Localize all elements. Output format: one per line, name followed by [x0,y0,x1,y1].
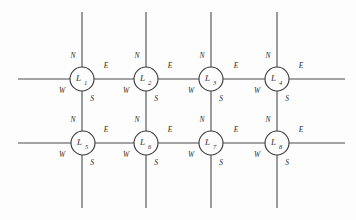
port-label-l2-w: W [123,86,130,95]
node-subscript-l1: 1 [84,79,87,86]
node-circle-l7[interactable] [199,131,223,155]
port-label-l1-e: E [103,61,109,70]
port-label-l5-n: N [69,115,76,124]
port-label-l7-e: E [233,125,239,134]
port-label-l3-s: S [219,94,223,103]
node-circle-l4[interactable] [265,67,289,91]
node-circle-l5[interactable] [71,131,95,155]
port-label-l7-w: W [188,150,195,159]
port-label-l2-n: N [133,51,140,60]
port-label-l3-n: N [198,51,205,60]
port-label-l6-s: S [154,158,158,167]
port-label-l4-s: S [285,94,289,103]
port-label-l1-n: N [69,51,76,60]
port-label-l4-w: W [254,86,261,95]
node-l3[interactable]: L3 [199,67,223,91]
port-label-l1-s: S [90,94,94,103]
port-label-l3-e: E [233,61,239,70]
port-label-l5-w: W [59,150,66,159]
node-l1[interactable]: L1 [70,67,94,91]
port-label-l6-n: N [133,115,140,124]
diagram-canvas: L1L2L3L4L5L6L7L8 NEWSNEWSNEWSNEWSNEWSNEW… [0,0,356,220]
node-label-l4: L [270,73,276,83]
port-label-l7-n: N [198,115,205,124]
port-label-l3-w: W [188,86,195,95]
node-circle-l3[interactable] [199,67,223,91]
port-label-l8-w: W [254,150,261,159]
node-label-l6: L [139,137,145,147]
horizontal-wires-group [18,79,345,143]
port-label-l2-e: E [167,61,173,70]
node-circle-l6[interactable] [134,131,158,155]
node-l4[interactable]: L4 [265,67,289,91]
node-label-l8: L [270,137,276,147]
node-circle-l1[interactable] [70,67,94,91]
port-label-l5-e: E [103,125,109,134]
node-label-l7: L [204,137,210,147]
mesh-network-diagram: L1L2L3L4L5L6L7L8 NEWSNEWSNEWSNEWSNEWSNEW… [0,0,356,220]
port-label-l1-w: W [59,86,66,95]
node-label-l2: L [139,73,145,83]
node-l7[interactable]: L7 [199,131,223,155]
node-label-l1: L [75,73,81,83]
port-label-l8-n: N [264,115,271,124]
node-label-l3: L [204,73,210,83]
port-label-l8-s: S [285,158,289,167]
node-label-l5: L [76,137,82,147]
node-l6[interactable]: L6 [134,131,158,155]
node-l8[interactable]: L8 [265,131,289,155]
port-label-l6-e: E [167,125,173,134]
port-label-l7-s: S [219,158,223,167]
port-label-l5-s: S [90,158,94,167]
port-label-l2-s: S [154,94,158,103]
node-circle-l8[interactable] [265,131,289,155]
port-label-l4-n: N [264,51,271,60]
nodes-group: L1L2L3L4L5L6L7L8 [70,67,289,155]
port-label-l4-e: E [298,61,304,70]
node-l5[interactable]: L5 [71,131,95,155]
port-label-l8-e: E [298,125,304,134]
node-circle-l2[interactable] [134,67,158,91]
port-label-l6-w: W [123,150,130,159]
vertical-wires-group [82,12,277,208]
node-l2[interactable]: L2 [134,67,158,91]
